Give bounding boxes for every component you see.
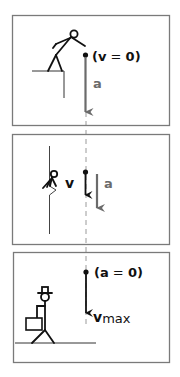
velocity-max-label: vmax: [93, 309, 131, 326]
velocity-label: v: [65, 175, 74, 191]
panel-falling: v a: [13, 135, 170, 245]
terminal-velocity-diagram: (v = 0) a v a: [0, 0, 180, 377]
panel-terminal: (a = 0) vmax: [14, 253, 170, 363]
object-dot: [83, 269, 88, 274]
person-with-briefcase-icon: [32, 287, 54, 343]
object-dot: [83, 52, 88, 57]
panel-jump: (v = 0) a: [13, 16, 170, 126]
falling-person-icon: [43, 171, 57, 188]
acceleration-label: a: [104, 176, 113, 191]
panel-frame: [13, 135, 170, 245]
state-label-a0: (a = 0): [94, 265, 143, 280]
state-label-v0: (v = 0): [92, 49, 141, 64]
jumping-person-icon: [48, 30, 85, 71]
acceleration-label: a: [93, 76, 102, 91]
cliff-icon: [32, 71, 64, 98]
cliff-face-icon: [50, 146, 57, 234]
briefcase-icon: [26, 318, 42, 330]
object-dot: [83, 169, 88, 174]
